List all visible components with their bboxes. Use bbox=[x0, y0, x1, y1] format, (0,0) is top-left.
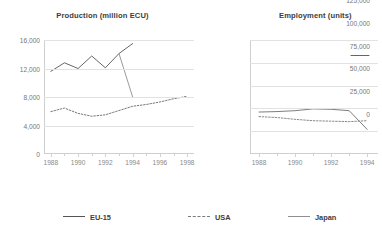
x-axis-tick-mark bbox=[51, 154, 52, 157]
gridline bbox=[250, 86, 378, 87]
legend-line-swatch-japan-icon bbox=[288, 213, 310, 221]
x-axis-tick-label: 1994 bbox=[360, 159, 375, 166]
legend-line-swatch-usa-icon bbox=[188, 213, 210, 221]
y-axis-tick-label: 0 bbox=[0, 151, 40, 158]
gridline bbox=[44, 97, 194, 98]
y-axis-tick-label: 125,000 bbox=[330, 0, 370, 4]
gridline bbox=[250, 108, 378, 109]
legend-item-japan: Japan bbox=[288, 205, 336, 229]
gridline bbox=[250, 40, 378, 41]
x-axis-tick-mark bbox=[105, 154, 106, 157]
x-axis-tick-label: 1990 bbox=[71, 159, 86, 166]
x-axis-minor-tick-mark bbox=[349, 154, 350, 156]
x-axis-tick-mark bbox=[295, 154, 296, 157]
x-axis-tick-mark bbox=[259, 154, 260, 157]
x-axis-minor-tick-mark bbox=[64, 154, 65, 156]
chart-title-production: Production (million ECU) bbox=[0, 11, 205, 20]
chart-legend: EU-15 USA Japan bbox=[0, 205, 370, 229]
x-axis-tick-label: 1998 bbox=[180, 159, 195, 166]
legend-label-usa: USA bbox=[215, 213, 231, 222]
x-axis-tick-label: 1994 bbox=[125, 159, 140, 166]
series-line-eu-15 bbox=[259, 109, 367, 130]
x-axis-minor-tick-mark bbox=[92, 154, 93, 156]
x-axis-tick-mark bbox=[133, 154, 134, 157]
y-axis-tick-label: 16,000 bbox=[0, 37, 40, 44]
x-axis-tick-mark bbox=[78, 154, 79, 157]
x-axis-minor-tick-mark bbox=[119, 154, 120, 156]
series-lines-employment bbox=[250, 40, 378, 154]
legend-line-swatch-eu15-icon bbox=[63, 213, 85, 221]
y-axis-tick-label: 12,000 bbox=[0, 65, 40, 72]
y-axis-tick-label: 8,000 bbox=[0, 94, 40, 101]
x-axis-tick-label: 1990 bbox=[288, 159, 303, 166]
y-axis-tick-label: 100,000 bbox=[330, 19, 370, 26]
legend-item-eu15: EU-15 bbox=[63, 205, 111, 229]
y-axis-tick-label: 4,000 bbox=[0, 122, 40, 129]
x-axis-tick-label: 1992 bbox=[324, 159, 339, 166]
y-axis-labels-production: 04,0008,00012,00016,000 bbox=[0, 40, 40, 154]
chart-panel-production: Production (million ECU) 04,0008,00012,0… bbox=[0, 0, 205, 195]
gridline bbox=[250, 131, 378, 132]
x-axis-tick-mark bbox=[367, 154, 368, 157]
x-axis-tick-mark bbox=[187, 154, 188, 157]
gridline bbox=[44, 126, 194, 127]
series-line-usa bbox=[259, 117, 367, 122]
legend-label-eu15: EU-15 bbox=[90, 213, 111, 222]
legend-item-usa: USA bbox=[188, 205, 231, 229]
x-axis-tick-label: 1992 bbox=[98, 159, 113, 166]
gridline bbox=[44, 69, 194, 70]
x-axis-tick-mark bbox=[331, 154, 332, 157]
series-line-usa bbox=[51, 96, 187, 116]
x-axis-minor-tick-mark bbox=[146, 154, 147, 156]
plot-area-employment bbox=[250, 40, 378, 154]
x-axis-tick-label: 1996 bbox=[153, 159, 168, 166]
gridline bbox=[250, 63, 378, 64]
plot-area-production bbox=[44, 40, 194, 154]
x-axis-minor-tick-mark bbox=[277, 154, 278, 156]
x-axis-tick-mark bbox=[160, 154, 161, 157]
series-line-japan bbox=[119, 54, 133, 97]
legend-label-japan: Japan bbox=[315, 213, 336, 222]
x-axis-tick-label: 1988 bbox=[43, 159, 58, 166]
gridline bbox=[44, 40, 194, 41]
x-axis-minor-tick-mark bbox=[313, 154, 314, 156]
x-axis-minor-tick-mark bbox=[174, 154, 175, 156]
x-axis-tick-label: 1988 bbox=[252, 159, 267, 166]
